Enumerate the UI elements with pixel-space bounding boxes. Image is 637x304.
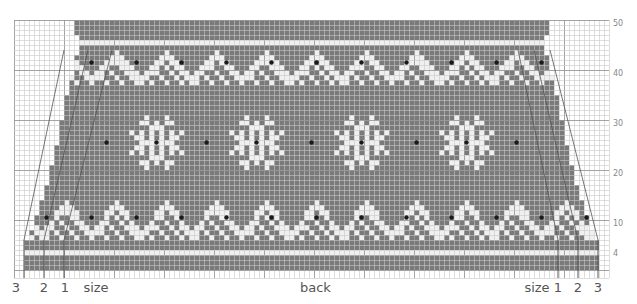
size-label-right-size: size	[524, 280, 549, 295]
dot-marker-icon	[154, 140, 158, 144]
dot-marker-icon	[314, 215, 318, 219]
dot-marker-icon	[404, 215, 408, 219]
dot-marker-icon	[414, 140, 418, 144]
dot-marker-icon	[309, 140, 313, 144]
row-label-40: 40	[613, 68, 623, 77]
dot-marker-icon	[224, 60, 228, 64]
dot-marker-icon	[539, 215, 543, 219]
dot-marker-icon	[464, 140, 468, 144]
knitting-chart-grid	[0, 0, 637, 304]
dot-marker-icon	[44, 215, 48, 219]
dot-marker-icon	[269, 215, 273, 219]
dot-marker-icon	[134, 60, 138, 64]
dot-marker-icon	[449, 60, 453, 64]
dot-marker-icon	[254, 140, 258, 144]
dot-marker-icon	[179, 215, 183, 219]
dot-marker-icon	[404, 60, 408, 64]
dot-marker-icon	[314, 60, 318, 64]
dot-marker-icon	[539, 60, 543, 64]
dot-marker-icon	[514, 140, 518, 144]
dot-marker-icon	[449, 215, 453, 219]
dot-marker-icon	[204, 140, 208, 144]
size-label-left-1: 1	[61, 280, 69, 295]
dot-marker-icon	[134, 215, 138, 219]
dot-marker-icon	[104, 140, 108, 144]
dot-marker-icon	[89, 215, 93, 219]
size-label-right-1: 1	[554, 280, 562, 295]
dot-marker-icon	[494, 60, 498, 64]
dot-marker-icon	[584, 215, 588, 219]
chart-caption-back: back	[300, 280, 331, 295]
dot-marker-icon	[359, 215, 363, 219]
row-label-10: 10	[613, 218, 623, 227]
size-label-right-3: 3	[594, 280, 602, 295]
row-label-20: 20	[613, 168, 623, 177]
dot-marker-icon	[494, 215, 498, 219]
dot-marker-icon	[89, 60, 93, 64]
dot-marker-icon	[359, 60, 363, 64]
row-label-4: 4	[613, 248, 618, 257]
dot-marker-icon	[269, 60, 273, 64]
size-label-left-2: 2	[40, 280, 48, 295]
dot-marker-icon	[359, 140, 363, 144]
size-label-left-3: 3	[12, 280, 20, 295]
row-label-50: 50	[613, 18, 623, 27]
size-label-right-2: 2	[574, 280, 582, 295]
dot-marker-icon	[179, 60, 183, 64]
size-label-left-size: size	[83, 280, 108, 295]
row-label-30: 30	[613, 118, 623, 127]
dot-marker-icon	[224, 215, 228, 219]
